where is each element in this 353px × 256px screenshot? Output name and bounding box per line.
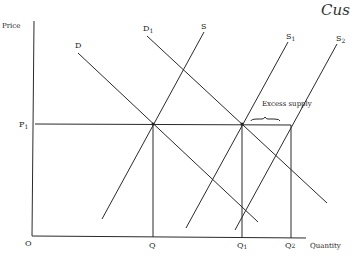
supply-curve-s2 — [235, 44, 337, 230]
quantity-label-q2: Q2 — [285, 241, 296, 250]
price-line-p1 — [35, 124, 291, 125]
origin-label: O — [25, 239, 32, 248]
supply-label-s: S — [201, 22, 206, 31]
price-label-p1: P1 — [19, 120, 28, 130]
demand-curve-d — [78, 53, 258, 222]
supply-label-s1: S1 — [286, 32, 295, 42]
y-axis — [32, 21, 34, 236]
y-axis-label: Price — [2, 22, 20, 30]
excess-supply-label: Excess supply — [262, 100, 312, 108]
equilibrium-point-original — [152, 123, 155, 126]
supply-label-s2: S2 — [336, 34, 345, 44]
supply-demand-diagram: Cus Price Quantity O P1 Q Q1 Q2 D D1 S S… — [0, 0, 353, 256]
x-axis — [32, 236, 306, 238]
demand-curve-d1 — [147, 36, 327, 203]
header-text: Cus — [321, 1, 350, 19]
excess-supply-brace — [251, 117, 280, 121]
equilibrium-point-new — [241, 123, 244, 126]
quantity-label-q: Q — [149, 241, 156, 250]
x-axis-label: Quantity — [310, 242, 341, 250]
quantity-label-q1: Q1 — [237, 241, 247, 250]
supply-curve-s1 — [186, 42, 288, 228]
demand-label-d: D — [75, 41, 81, 50]
demand-label-d1: D1 — [143, 24, 153, 34]
